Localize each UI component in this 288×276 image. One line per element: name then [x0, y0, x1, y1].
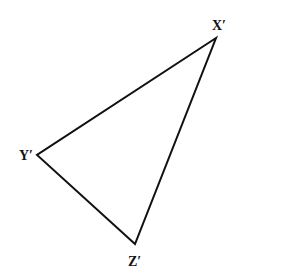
triangle-xyz-prime — [37, 38, 216, 244]
vertex-label-y-prime: Y′ — [19, 148, 33, 163]
vertex-label-z-prime: Z′ — [128, 254, 141, 269]
vertex-label-x-prime: X′ — [212, 18, 226, 33]
triangle-diagram: X′ Y′ Z′ — [0, 0, 288, 276]
